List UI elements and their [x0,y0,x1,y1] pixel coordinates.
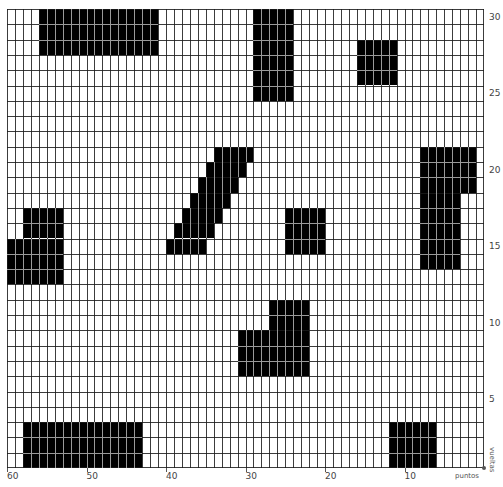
filled-grid-line [277,330,278,376]
filled-grid-line [39,24,158,25]
grid-line-horizontal [7,162,484,163]
filled-grid-line [79,422,80,468]
filled-grid-line [420,239,460,240]
grid-line-horizontal [7,376,484,377]
filled-grid-line [63,9,64,55]
filled-grid-line [87,422,88,468]
filled-grid-line [269,330,270,376]
filled-grid-line [214,162,215,177]
filled-grid-line [389,40,390,86]
filled-grid-line [460,147,461,193]
row-number-label: 15 [489,241,500,251]
filled-grid-line [87,9,88,55]
filled-grid-line [214,177,215,192]
grid-line-horizontal [7,284,484,285]
filled-grid-line [15,239,16,285]
filled-grid-line [190,239,191,254]
filled-stitch-block [198,177,238,192]
filled-grid-line [118,422,119,468]
filled-grid-line [214,193,215,208]
filled-grid-line [198,223,199,238]
filled-grid-line [436,147,437,193]
filled-grid-line [47,239,48,285]
filled-grid-line [206,223,207,238]
filled-grid-line [253,24,293,25]
row-number-label: 30 [489,12,500,22]
grid-line-horizontal [7,101,484,102]
filled-grid-line [420,223,460,224]
filled-grid-line [285,223,325,224]
filled-grid-line [253,330,254,376]
filled-stitch-block [420,193,460,270]
grid-line-horizontal [7,315,484,316]
filled-grid-line [285,330,286,376]
filled-grid-line [7,254,63,255]
grid-line-horizontal [7,193,484,194]
filled-grid-line [230,162,231,177]
tick-mark [246,468,247,472]
filled-grid-line [444,147,445,193]
filled-grid-line [47,422,48,468]
tick-mark [325,468,326,472]
filled-stitch-block [174,223,214,238]
stitch-number-label: 10 [405,471,416,481]
filled-grid-line [357,70,397,71]
filled-grid-line [468,147,469,193]
filled-grid-line [253,86,293,87]
filled-stitch-block [214,147,254,162]
tick-mark [166,468,167,472]
grid-line-horizontal [7,239,484,240]
grid-line-horizontal [7,116,484,117]
stitch-number-label: 20 [325,471,336,481]
filled-grid-line [150,9,151,55]
row-number-label: 10 [489,318,500,328]
filled-grid-line [102,422,103,468]
tick-mark [405,468,406,472]
tick-mark [7,468,8,472]
filled-grid-line [23,239,24,285]
filled-grid-line [230,147,231,162]
grid-line-horizontal [7,86,484,87]
filled-stitch-block [39,9,158,55]
filled-grid-line [365,40,366,86]
filled-grid-line [222,162,223,177]
grid-line-horizontal [7,269,484,270]
filled-grid-line [285,239,325,240]
filled-grid-line [397,422,398,468]
filled-grid-line [102,9,103,55]
filled-grid-line [110,9,111,55]
grid-line-horizontal [7,392,484,393]
filled-stitch-block [182,208,222,223]
filled-grid-line [198,193,199,208]
grid-line-horizontal [7,70,484,71]
filled-grid-line [182,223,183,238]
grid-line-horizontal [7,177,484,178]
filled-grid-line [118,9,119,55]
filled-grid-line [357,55,397,56]
filled-grid-line [238,162,239,177]
filled-grid-line [47,9,48,55]
filled-grid-line [222,177,223,192]
stitch-number-label: 60 [7,471,18,481]
stitch-number-label: 30 [246,471,257,481]
filled-grid-line [190,208,191,223]
filled-grid-line [373,40,374,86]
filled-stitch-block [23,422,142,468]
filled-grid-line [39,422,40,468]
filled-grid-line [405,422,406,468]
filled-grid-line [71,422,72,468]
origin-marker [482,466,486,470]
filled-grid-line [301,208,302,254]
filled-grid-line [134,9,135,55]
filled-grid-line [428,422,429,468]
filled-stitch-block [166,239,206,254]
filled-grid-line [182,239,183,254]
filled-grid-line [246,147,247,162]
filled-grid-line [420,254,460,255]
filled-grid-line [206,177,207,192]
row-number-label: 20 [489,165,500,175]
filled-grid-line [142,9,143,55]
filled-grid-line [381,40,382,86]
filled-grid-line [238,346,310,347]
row-number-label: 5 [489,394,495,404]
